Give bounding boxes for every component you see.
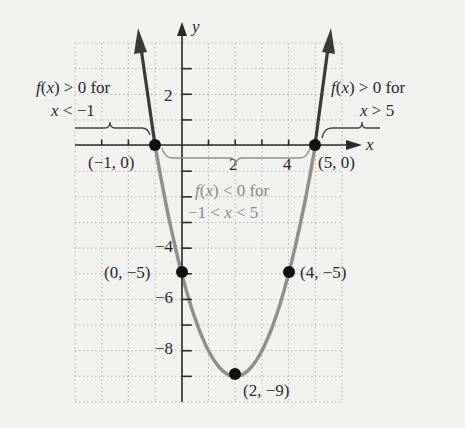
right-annotation-line1: f(x) > 0 for <box>331 78 406 97</box>
arrowhead-icon <box>134 28 147 54</box>
y-tick-label-2: 2 <box>164 86 173 105</box>
y-tick-label-neg6: −6 <box>155 288 173 307</box>
arrowhead-icon <box>322 28 335 54</box>
middle-annotation-line2: −1 < x < 5 <box>188 203 258 222</box>
x-axis-label: x <box>365 135 374 154</box>
y-tick-label-neg4: −4 <box>155 237 174 256</box>
y-axis <box>177 22 187 402</box>
left-region-brace <box>75 122 150 135</box>
point-label-4-neg5: (4, −5) <box>300 263 346 282</box>
x-axis-arrow-icon <box>346 140 362 150</box>
middle-annotation-line1: f(x) < 0 for <box>195 181 270 200</box>
y-axis-arrow-icon <box>177 22 187 36</box>
left-annotation-line1: f(x) > 0 for <box>36 78 111 97</box>
point-label-0-neg5: (0, −5) <box>104 263 150 282</box>
chart-figure: x y 2 4 2 −4 −6 −8 f(x) > 0 for x < −1 f… <box>0 0 465 428</box>
point-label-neg1-0: (−1, 0) <box>88 153 134 172</box>
left-annotation-line2: x < −1 <box>50 101 95 120</box>
point-y-intercept <box>176 266 188 278</box>
right-annotation-line2: x > 5 <box>359 101 394 120</box>
point-symmetric <box>283 266 295 278</box>
point-vertex <box>229 368 241 380</box>
parabola-chart: x y 2 4 2 −4 −6 −8 f(x) > 0 for x < −1 f… <box>0 0 465 428</box>
point-x-intercept-left <box>149 139 161 151</box>
point-label-5-0: (5, 0) <box>318 153 355 172</box>
y-tick-label-neg8: −8 <box>155 339 173 358</box>
y-axis-label: y <box>190 17 200 36</box>
point-label-vertex: (2, −9) <box>243 381 289 400</box>
point-x-intercept-right <box>309 139 321 151</box>
